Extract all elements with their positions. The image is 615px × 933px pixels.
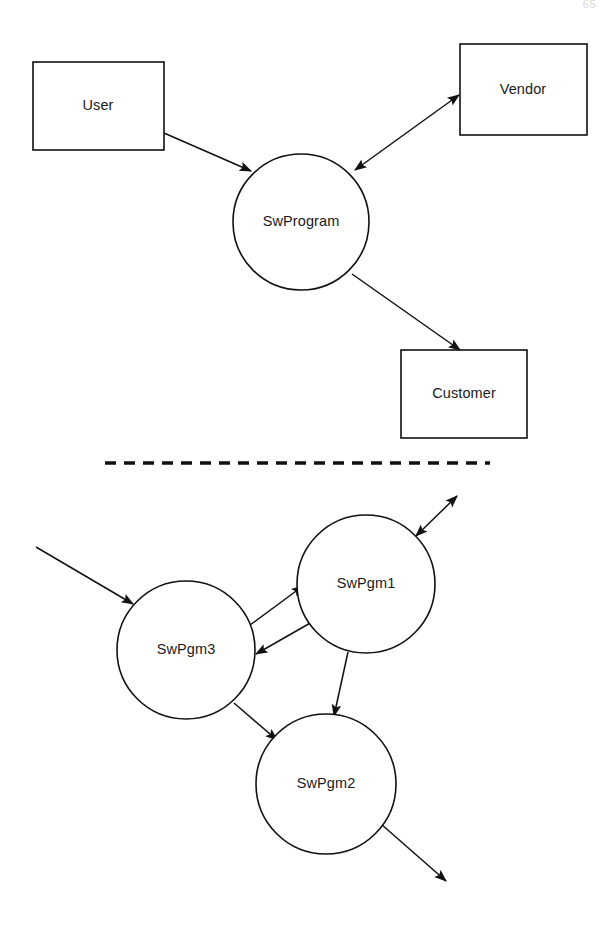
node-swpgm1[interactable]: SwPgm1 [297, 515, 435, 653]
user-label: User [82, 97, 113, 113]
swprogram-label: SwProgram [263, 213, 340, 229]
vendor-label: Vendor [500, 81, 547, 97]
edge-swpgm3-to-swpgm2 [234, 703, 277, 740]
swpgm1-label: SwPgm1 [337, 575, 396, 591]
edge-user-to-swprogram [164, 133, 251, 171]
node-vendor[interactable]: Vendor [460, 44, 587, 135]
edge-swprogram-to-vendor [355, 95, 459, 170]
diagram-root: 65 User Vendor Customer [0, 0, 615, 933]
node-swpgm2[interactable]: SwPgm2 [256, 714, 396, 854]
swpgm2-label: SwPgm2 [297, 775, 356, 791]
edge-swpgm2-to-external [381, 824, 446, 881]
swpgm3-label: SwPgm3 [157, 641, 216, 657]
node-customer[interactable]: Customer [401, 350, 527, 438]
node-user[interactable]: User [33, 62, 164, 150]
edge-swpgm1-to-swpgm2 [334, 652, 348, 716]
customer-label: Customer [432, 385, 496, 401]
node-swprogram[interactable]: SwProgram [233, 154, 369, 290]
edge-swpgm1-to-swpgm3 [256, 622, 312, 654]
edge-swpgm1-to-external [416, 496, 457, 536]
edge-swprogram-to-customer [352, 274, 460, 350]
diagram-canvas: User Vendor Customer SwProgram [0, 0, 615, 933]
edge-external-in-to-swpgm3 [36, 547, 133, 604]
node-swpgm3[interactable]: SwPgm3 [117, 581, 255, 719]
edge-swpgm3-to-swpgm1 [250, 586, 303, 625]
